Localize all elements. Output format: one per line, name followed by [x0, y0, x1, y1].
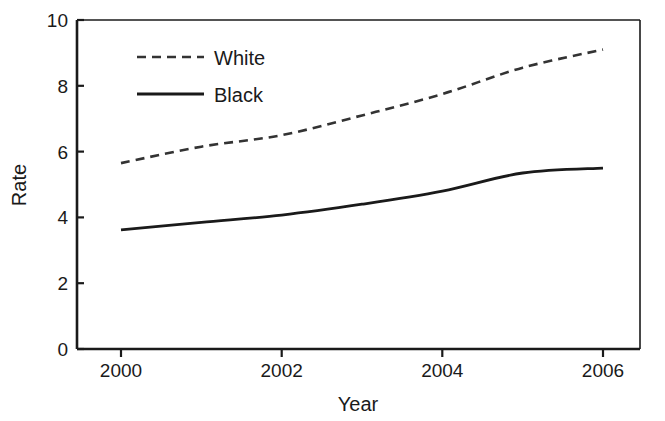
- legend: White Black: [137, 47, 265, 106]
- x-axis-tick-labels: 2000 2002 2004 2006: [100, 360, 624, 381]
- series-white: [121, 50, 603, 164]
- y-tick-label-0: 0: [57, 339, 68, 360]
- line-black: [121, 168, 603, 230]
- y-tick-label-6: 6: [57, 142, 68, 163]
- plot-frame: [77, 20, 640, 349]
- x-tick-label-2002: 2002: [261, 360, 303, 381]
- chart-figure: 0 2 4 6 8 10 2000 2002 2004 2006 Year Ra…: [0, 0, 665, 421]
- y-axis-title: Rate: [8, 164, 30, 206]
- x-axis-title: Year: [338, 393, 379, 415]
- y-tick-label-2: 2: [57, 273, 68, 294]
- legend-label-black: Black: [214, 84, 264, 106]
- x-tick-label-2000: 2000: [100, 360, 142, 381]
- y-tick-label-4: 4: [57, 207, 68, 228]
- y-axis-tick-labels: 0 2 4 6 8 10: [47, 10, 69, 360]
- line-white: [121, 50, 603, 164]
- x-tick-label-2004: 2004: [421, 360, 464, 381]
- y-tick-label-8: 8: [57, 76, 68, 97]
- x-tick-label-2006: 2006: [582, 360, 624, 381]
- legend-label-white: White: [214, 47, 265, 69]
- series-black: [121, 168, 603, 230]
- line-chart: 0 2 4 6 8 10 2000 2002 2004 2006 Year Ra…: [0, 0, 665, 421]
- y-tick-label-10: 10: [47, 10, 68, 31]
